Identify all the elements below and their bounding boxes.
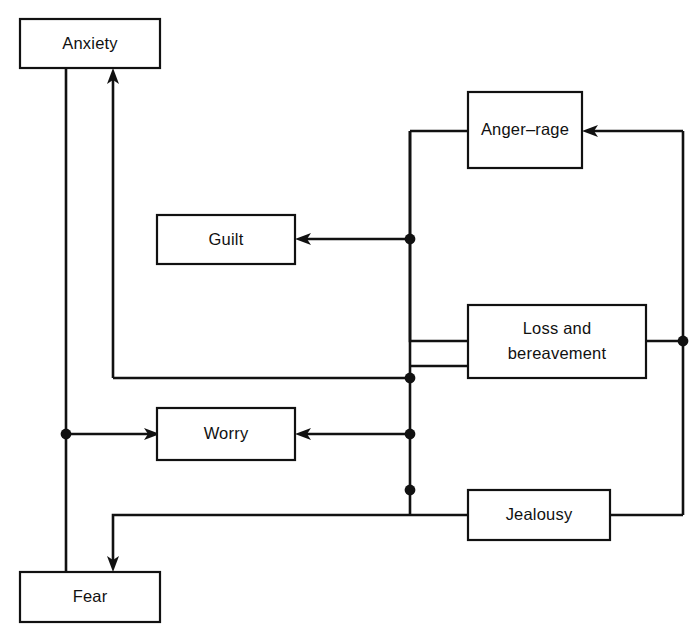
node-loss-box[interactable] xyxy=(468,305,646,378)
junction-dot-loss-output xyxy=(678,336,689,347)
node-guilt-label: Guilt xyxy=(209,230,244,248)
node-anger-rage-label: Anger–rage xyxy=(481,120,569,138)
node-guilt[interactable]: Guilt xyxy=(157,215,295,264)
node-fear-label: Fear xyxy=(73,587,108,605)
edge-bus-vertical-upper xyxy=(410,131,468,341)
node-jealousy[interactable]: Jealousy xyxy=(468,490,610,540)
junction-dot-worry-branch xyxy=(405,429,416,440)
node-loss-and-bereavement[interactable]: Loss and bereavement xyxy=(468,305,646,378)
junction-dot-guilt-branch xyxy=(405,234,416,245)
node-anxiety-label: Anxiety xyxy=(62,34,118,52)
junction-dot-fear-branch xyxy=(405,485,416,496)
edge-jealousy-to-fear xyxy=(113,515,410,562)
node-loss-label-line2: bereavement xyxy=(508,344,607,362)
node-worry[interactable]: Worry xyxy=(157,408,295,460)
node-jealousy-label: Jealousy xyxy=(506,505,573,523)
junction-dot-fear-to-worry xyxy=(61,429,72,440)
diagram-canvas: Anxiety Guilt Worry Fear Anger–rage Loss xyxy=(0,0,697,635)
node-fear[interactable]: Fear xyxy=(20,572,160,622)
node-worry-label: Worry xyxy=(204,424,249,442)
emotion-flow-diagram: Anxiety Guilt Worry Fear Anger–rage Loss xyxy=(0,0,697,635)
node-anxiety[interactable]: Anxiety xyxy=(20,19,160,68)
node-loss-label-line1: Loss and xyxy=(523,319,592,337)
junction-dot-anxiety-branch xyxy=(405,373,416,384)
node-anger-rage[interactable]: Anger–rage xyxy=(468,92,582,168)
